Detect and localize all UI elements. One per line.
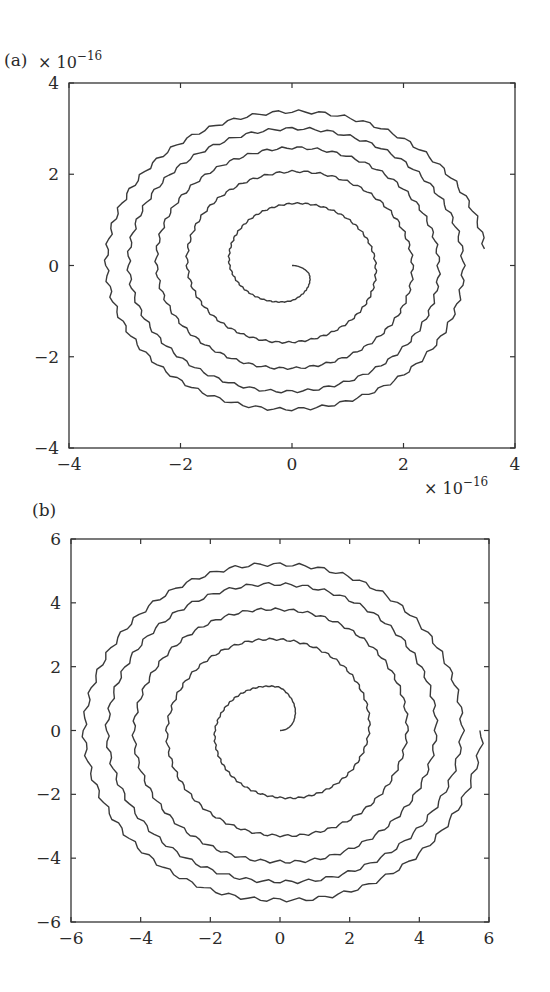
panel-a-label: (a) [4,50,27,70]
x-tick-label: 2 [398,454,409,474]
x-tick-label: 6 [484,928,495,948]
panel-a-plot: (a) × 10−16 × 10−16 −4−2024−4−2024 [4,49,520,498]
panel-a-y-exponent: × 10−16 [38,49,102,72]
x-tick-label: −4 [128,928,153,948]
x-tick-label: 0 [275,928,286,948]
x-tick-label: 2 [344,928,355,948]
x-tick-label: −2 [168,454,193,474]
y-tick-label: 2 [48,164,59,184]
y-tick-label: 2 [50,657,61,677]
x-tick-label: −2 [198,928,223,948]
x-tick-label: 4 [414,928,425,948]
y-tick-label: −4 [36,848,61,868]
y-tick-label: 4 [48,73,59,93]
panel-a-axes: −4−2024−4−2024 [34,73,520,474]
y-tick-label: −4 [34,438,59,458]
x-tick-label: 4 [510,454,521,474]
x-tick-label: 0 [287,454,298,474]
y-tick-label: 0 [50,721,61,741]
panel-b-label: (b) [32,500,56,520]
panel-b-plot: (b) −6−4−20246−6−4−20246 [32,500,494,948]
panel-b-spiral-curve [82,563,483,902]
x-tick-label: −4 [56,454,81,474]
y-tick-label: 0 [48,256,59,276]
panel-b-axes: −6−4−20246−6−4−20246 [36,529,494,948]
y-tick-label: −2 [34,347,59,367]
panel-a-x-exponent: × 10−16 [424,475,488,498]
y-tick-label: 6 [50,529,61,549]
y-tick-label: 4 [50,593,61,613]
x-tick-label: −6 [58,928,83,948]
panel-a-spiral-curve [105,110,485,411]
y-tick-label: −6 [36,912,61,932]
figure: (a) × 10−16 × 10−16 −4−2024−4−2024 (b) −… [0,0,550,992]
y-tick-label: −2 [36,784,61,804]
